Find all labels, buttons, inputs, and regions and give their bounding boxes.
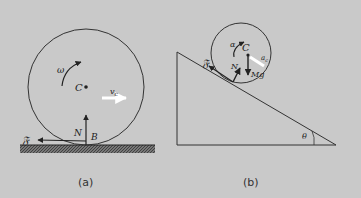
caption-b: (b) — [243, 176, 259, 189]
alpha-label: α — [230, 40, 236, 49]
caption-a: (a) — [78, 176, 93, 189]
normal-label: N — [73, 128, 83, 138]
friction-label-b: 𝔉 — [202, 57, 211, 70]
center-label-b: C — [242, 42, 250, 53]
omega-label: ω — [57, 65, 65, 75]
velocity-label: vc — [110, 87, 119, 97]
weight-label: Mg — [250, 70, 264, 79]
physics-diagram: ω C vc N B 𝔉 (a) α C ac N Mg 𝔉 θ (b) — [0, 0, 361, 198]
center-label: C — [75, 82, 83, 93]
angle-label: θ — [302, 132, 307, 141]
panel-b: α C ac N Mg 𝔉 θ (b) — [177, 23, 336, 189]
center-dot — [84, 85, 88, 89]
panel-a: ω C vc N B 𝔉 (a) — [20, 29, 155, 189]
friction-arrow-b — [209, 66, 233, 82]
normal-label-b: N — [230, 62, 239, 71]
angle-arc — [312, 131, 314, 145]
contact-label: B — [90, 132, 98, 142]
friction-arrow — [38, 140, 86, 141]
accel-label: ac — [261, 54, 268, 63]
ground — [20, 145, 155, 153]
